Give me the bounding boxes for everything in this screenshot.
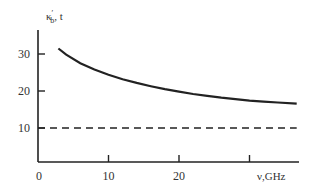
chart: 102030 01020 κ′b, t ν,GHz <box>0 0 319 192</box>
x-axis-title: ν,GHz <box>257 170 286 182</box>
y-axis-title: κ′b, t <box>46 9 63 25</box>
y-tick-label: 20 <box>18 84 30 98</box>
y-ticks: 102030 <box>18 47 45 135</box>
y-tick-label: 30 <box>18 47 30 61</box>
x-tick-label: 0 <box>36 169 42 183</box>
x-ticks: 01020 <box>36 155 250 183</box>
x-tick-label: 20 <box>173 169 185 183</box>
y-tick-label: 10 <box>18 121 30 135</box>
curve-kappa-b <box>58 49 296 104</box>
x-tick-label: 10 <box>103 169 115 183</box>
